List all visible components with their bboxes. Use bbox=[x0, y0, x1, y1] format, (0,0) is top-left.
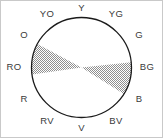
hue-label-yg: YG bbox=[109, 9, 123, 19]
color-wheel-figure bbox=[0, 0, 163, 138]
hue-label-bv: BV bbox=[109, 116, 122, 126]
hue-label-r: R bbox=[20, 94, 27, 104]
hue-label-ro: RO bbox=[7, 62, 22, 72]
hue-label-bg: BG bbox=[140, 62, 154, 72]
hue-label-rv: RV bbox=[40, 116, 54, 126]
color-wheel-screenshot: YYGGBGBBVVRVRROOYO bbox=[0, 0, 163, 138]
hue-label-o: O bbox=[20, 30, 28, 40]
hue-label-g: G bbox=[135, 30, 143, 40]
hue-label-b: B bbox=[136, 94, 143, 104]
hue-label-y: Y bbox=[78, 3, 85, 13]
hue-label-v: V bbox=[78, 123, 85, 133]
hue-label-yo: YO bbox=[40, 9, 54, 19]
